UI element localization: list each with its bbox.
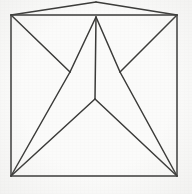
- figure-canvas: [0, 0, 192, 194]
- apex-center-stem: [95, 17, 96, 99]
- line-drawing-svg: [0, 0, 192, 194]
